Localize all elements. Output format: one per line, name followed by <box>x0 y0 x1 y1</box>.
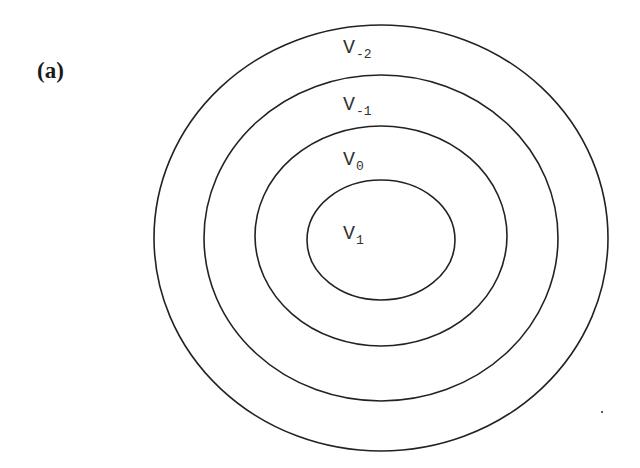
stray-dot-mark <box>601 411 603 413</box>
ring-outer <box>154 25 608 451</box>
label-subscript: -2 <box>356 47 372 62</box>
ring-third <box>255 126 507 346</box>
figure-canvas: (a) V-2 V-1 V0 V1 <box>0 0 640 468</box>
label-main: V <box>343 222 355 245</box>
ring-inner <box>307 180 455 300</box>
label-v-minus-1: V-1 <box>343 95 372 115</box>
ring-second <box>204 75 558 401</box>
label-main: V <box>343 93 355 116</box>
label-subscript: -1 <box>356 104 372 119</box>
label-subscript: 0 <box>356 159 364 174</box>
label-v-1: V1 <box>343 224 364 244</box>
label-main: V <box>343 148 355 171</box>
label-subscript: 1 <box>356 233 364 248</box>
label-main: V <box>343 36 355 59</box>
label-v-minus-2: V-2 <box>343 38 372 58</box>
nested-rings-diagram <box>0 0 640 468</box>
label-v-0: V0 <box>343 150 364 170</box>
